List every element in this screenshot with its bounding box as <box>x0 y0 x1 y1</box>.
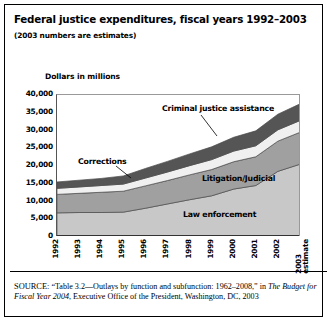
leader-line-criminal-justice-assistance <box>201 115 217 136</box>
source-text-part1: “Table 3.2—Outlays by function and subfu… <box>49 282 268 291</box>
x-tick-2000: 2000 <box>229 239 242 259</box>
x-tick-2002: 2002 <box>273 239 286 259</box>
x-axis-tick-labels: 1992199319941995199619971998199920002001… <box>56 239 306 281</box>
x-tick-1999: 1999 <box>207 239 220 259</box>
x-tick-1994: 1994 <box>96 239 109 259</box>
x-tick-1995: 1995 <box>118 239 131 259</box>
source-note: SOURCE: “Table 3.2—Outlays by function a… <box>14 282 317 302</box>
x-tick-2003: 2003estimate <box>295 239 312 274</box>
x-tick-1996: 1996 <box>140 239 153 259</box>
x-tick-1997: 1997 <box>162 239 175 259</box>
x-tick-1998: 1998 <box>185 239 198 259</box>
figure-container: Federal justice expenditures, fiscal yea… <box>4 4 323 317</box>
leader-line-corrections <box>116 166 131 178</box>
x-tick-1993: 1993 <box>74 239 87 259</box>
x-tick-2001: 2001 <box>251 239 264 259</box>
source-label: SOURCE: <box>14 282 49 291</box>
divider <box>10 271 327 272</box>
x-tick-1992: 1992 <box>52 239 65 259</box>
source-text-part2: , Executive Office of the President, Was… <box>69 292 259 301</box>
